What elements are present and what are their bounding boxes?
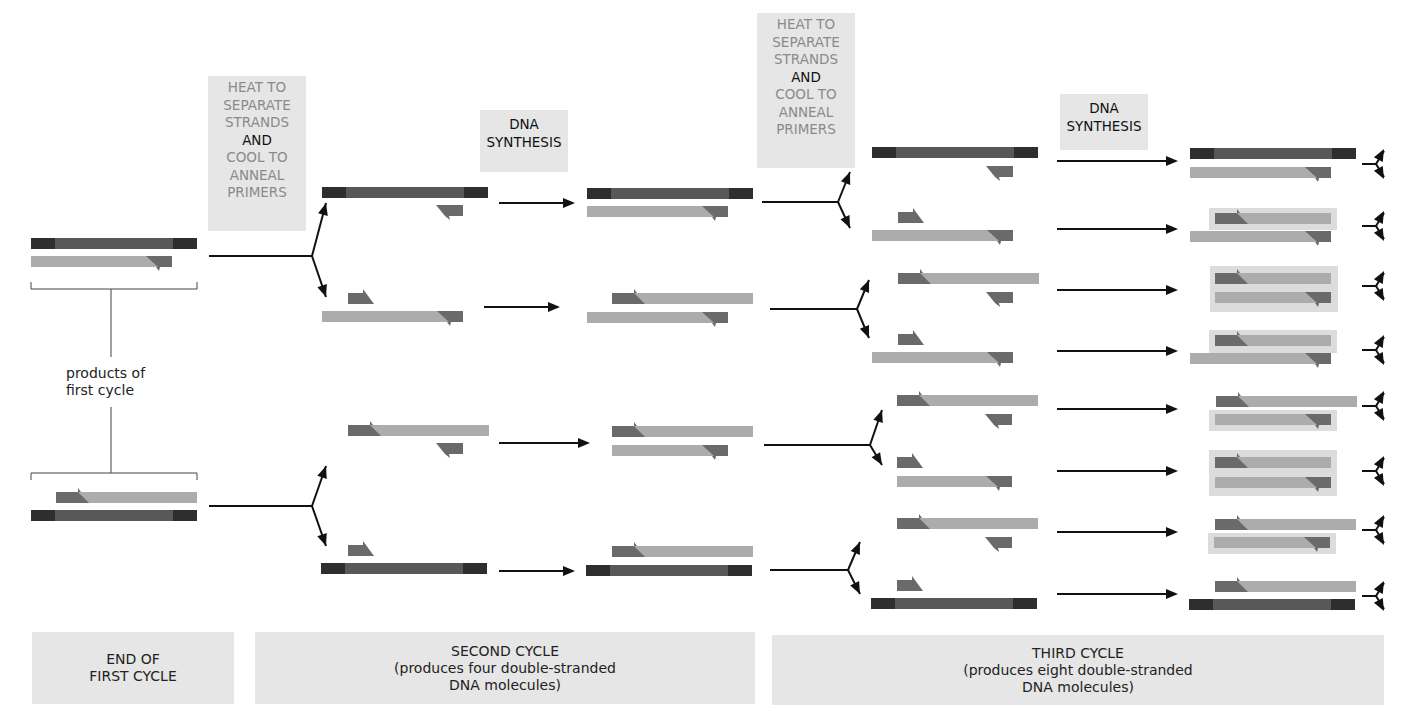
strands-line-2: STRANDS <box>757 51 855 69</box>
primer-tip <box>712 217 716 221</box>
template-strand <box>1189 599 1355 610</box>
template-end-left <box>1189 599 1213 610</box>
heat-line-2: HEAT TO <box>757 16 855 34</box>
strands-line-1: STRANDS <box>208 114 306 132</box>
template-strand <box>1190 148 1356 159</box>
primer-tip <box>78 488 81 492</box>
template-end-left <box>321 563 345 574</box>
primer-tip <box>447 322 451 326</box>
footer-third-line-2: (produces eight double-stranded <box>963 662 1193 679</box>
template-end-right <box>173 510 197 521</box>
dna-line-1: DNA <box>480 116 568 134</box>
right-arrow-head <box>1166 346 1178 356</box>
template-strand <box>322 187 488 198</box>
free-primer-forward <box>348 541 374 556</box>
primer-tip <box>712 323 716 327</box>
right-arrow-head <box>1166 527 1178 537</box>
heat-line-1: HEAT TO <box>208 79 306 97</box>
template-strand <box>321 563 487 574</box>
template-end-right <box>464 187 488 198</box>
primer-tip <box>1315 364 1319 368</box>
arrow-head <box>873 410 882 423</box>
template-end-right <box>1013 598 1037 609</box>
footer-second-cycle: SECOND CYCLE (produces four double-stran… <box>255 632 755 704</box>
template-end-left <box>872 147 896 158</box>
primer-tip <box>1237 577 1240 581</box>
bracket-bottom <box>31 473 197 480</box>
arrow-head <box>841 172 850 185</box>
synthesis-line-1: SYNTHESIS <box>480 134 568 152</box>
free-primer-reverse <box>986 292 1013 307</box>
free-primer-reverse <box>436 443 463 458</box>
right-arrow-head <box>1166 285 1178 295</box>
template-end-right <box>1014 147 1038 158</box>
free-primer-forward <box>898 208 924 223</box>
free-primer-forward <box>348 289 374 304</box>
template-end-left <box>1190 148 1214 159</box>
arrow-head <box>872 452 882 465</box>
template-strand <box>586 565 752 576</box>
products-of-first-cycle-label: products of first cycle <box>66 365 145 399</box>
primer-tip <box>712 456 716 460</box>
primer-tip <box>997 241 1001 245</box>
new-product-highlight <box>1210 266 1338 312</box>
footer-second-line-1: SECOND CYCLE <box>451 643 559 660</box>
right-arrow-head <box>1166 224 1178 234</box>
primer-tip <box>156 267 160 271</box>
footer-third-line-1: THIRD CYCLE <box>1032 645 1124 662</box>
template-end-left <box>322 187 346 198</box>
template-strand <box>871 598 1037 609</box>
primer-tip <box>634 422 637 426</box>
primer-tip <box>1315 178 1319 182</box>
products-line-1: products of <box>66 365 145 382</box>
arrow-head <box>860 325 869 338</box>
footer-second-line-3: DNA molecules) <box>449 677 561 694</box>
separate-line-1: SEPARATE <box>208 97 306 115</box>
primer-tip <box>370 421 373 425</box>
anneal-line-2: ANNEAL <box>757 104 855 122</box>
right-arrow-head <box>578 438 590 448</box>
arrow-head <box>851 542 860 555</box>
footer-third-cycle: THIRD CYCLE (produces eight double-stran… <box>772 635 1384 705</box>
heat-cool-label-1: HEAT TO SEPARATE STRANDS AND COOL TO ANN… <box>208 76 306 231</box>
primer-tip <box>1238 392 1241 396</box>
free-primer-forward <box>897 576 923 591</box>
primer-tip <box>997 363 1001 367</box>
products-line-2: first cycle <box>66 382 145 399</box>
primers-line-2: PRIMERS <box>757 121 855 139</box>
separate-line-2: SEPARATE <box>757 34 855 52</box>
footer-end-of-first-cycle: END OF FIRST CYCLE <box>32 632 234 704</box>
synthesis-line-2: SYNTHESIS <box>1060 118 1148 136</box>
primer-tip <box>920 269 923 273</box>
primer-tip <box>1237 515 1240 519</box>
primer-tip <box>919 514 922 518</box>
footer-third-line-3: DNA molecules) <box>1022 679 1134 696</box>
template-end-right <box>728 565 752 576</box>
template-end-right <box>1332 148 1356 159</box>
primer-tip <box>1315 242 1319 246</box>
template-strand <box>872 147 1038 158</box>
primer-tip <box>919 391 922 395</box>
primer-tip <box>634 289 637 293</box>
primer-tip <box>996 487 1000 491</box>
template-end-left <box>31 238 55 249</box>
template-end-right <box>729 188 753 199</box>
template-end-left <box>586 565 610 576</box>
template-end-right <box>463 563 487 574</box>
free-primer-reverse <box>985 414 1012 429</box>
cool-line-2: COOL TO <box>757 86 855 104</box>
template-strand <box>31 238 197 249</box>
right-arrow-head <box>1166 589 1178 599</box>
template-end-right <box>173 238 197 249</box>
and-line-2: AND <box>757 69 855 87</box>
template-strand <box>31 510 197 521</box>
free-primer-reverse <box>986 166 1013 181</box>
footer-first-line-2: FIRST CYCLE <box>89 668 177 685</box>
footer-second-line-2: (produces four double-stranded <box>394 660 616 677</box>
template-end-left <box>587 188 611 199</box>
right-arrow-head <box>1166 466 1178 476</box>
arrow-head <box>317 284 326 297</box>
template-end-right <box>1331 599 1355 610</box>
right-arrow-head <box>548 302 560 312</box>
free-primer-reverse <box>436 205 463 220</box>
